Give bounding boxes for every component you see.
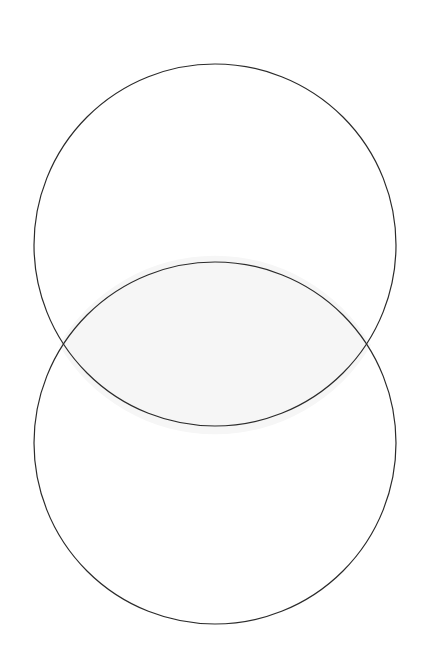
diagram-canvas — [0, 0, 426, 672]
intersection-lens-shape — [59, 256, 371, 434]
venn-diagram — [0, 0, 426, 672]
